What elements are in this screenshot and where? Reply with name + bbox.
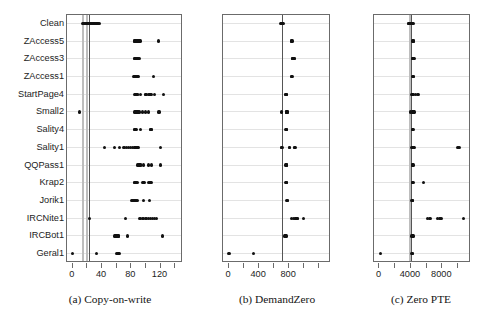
row-gridline [374, 129, 469, 130]
row-gridline [374, 200, 469, 201]
data-point [416, 93, 419, 96]
figure-multi-panel-strip-plot: CleanZAccess5ZAccess3ZAccess1StartPage4S… [0, 0, 477, 329]
x-axis-tick-label: 0 [376, 269, 381, 280]
row-gridline [374, 41, 469, 42]
x-axis-tick [378, 263, 379, 268]
data-point [412, 39, 415, 42]
x-axis-tick-label: 8000 [431, 269, 451, 280]
x-axis-tick [426, 263, 427, 268]
caption-panel-c: (c) Zero PTE [391, 293, 451, 305]
row-gridline [374, 218, 469, 219]
data-point [422, 181, 425, 184]
row-gridline [374, 147, 469, 148]
x-axis-tick [394, 263, 395, 268]
data-point [411, 252, 414, 255]
panel-zero-pte: 040008000 (c) Zero PTE [0, 0, 477, 329]
data-point [411, 199, 414, 202]
row-gridline [374, 58, 469, 59]
reference-line [411, 15, 412, 261]
data-point [412, 234, 415, 237]
data-point [462, 217, 465, 220]
data-point [440, 217, 443, 220]
x-axis-tick [441, 263, 442, 268]
data-point [458, 146, 461, 149]
x-axis-tick [457, 263, 458, 268]
row-gridline [374, 23, 469, 24]
data-point [412, 163, 415, 166]
data-point [429, 217, 432, 220]
row-gridline [374, 76, 469, 77]
row-gridline [374, 94, 469, 95]
row-gridline [374, 235, 469, 236]
plot-area-zero-pte [373, 14, 470, 262]
data-point [412, 128, 415, 131]
data-point [412, 22, 415, 25]
data-point [412, 146, 415, 149]
row-gridline [374, 111, 469, 112]
data-point [412, 57, 415, 60]
data-point [379, 252, 382, 255]
row-gridline [374, 165, 469, 166]
row-gridline [374, 253, 469, 254]
x-axis-tick [410, 263, 411, 268]
data-point [412, 181, 415, 184]
data-point [412, 110, 415, 113]
x-axis-tick-label: 4000 [400, 269, 420, 280]
data-point [412, 75, 415, 78]
